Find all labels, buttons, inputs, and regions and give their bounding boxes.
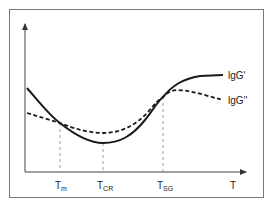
label-gdoubleprime: lgG'' [228,95,247,106]
label-gprime: lgG' [228,70,246,81]
diagram-canvas: lgG' lgG'' Tm TCR TSG T [0,0,270,203]
outer-frame [10,10,264,198]
tick-tm: Tm [55,180,67,192]
curve-gprime [27,75,223,143]
curve-gdoubleprime [27,90,223,133]
x-axis-label: T [230,180,236,191]
tick-tsg: TSG [157,180,173,192]
rheology-diagram: lgG' lgG'' Tm TCR TSG T [0,0,270,203]
tick-tcr: TCR [97,180,113,192]
